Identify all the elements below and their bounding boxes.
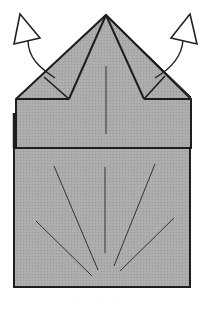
- hat-top: [16, 15, 191, 148]
- caption: · · ·: [0, 296, 207, 303]
- origami-diagram: [0, 0, 207, 311]
